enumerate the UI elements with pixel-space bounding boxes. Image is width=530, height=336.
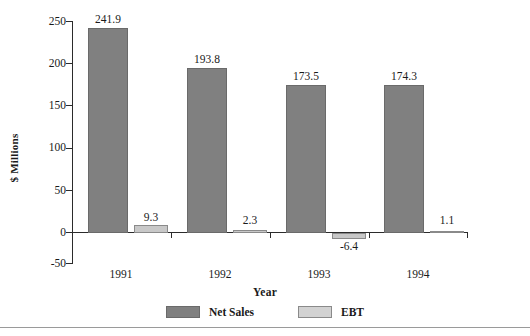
- bar-value-label-net-sales-1994: 174.3: [374, 70, 434, 82]
- bar-value-label-ebt-1992: 2.3: [220, 214, 280, 226]
- x-axis-tick: [369, 232, 370, 238]
- bar-value-label-ebt-1993: -6.4: [319, 240, 379, 252]
- footer-caption: [14, 329, 314, 336]
- bar-value-label-net-sales-1991: 241.9: [78, 13, 138, 25]
- legend-label-net-sales: Net Sales: [209, 306, 254, 318]
- y-axis-tick: [66, 190, 72, 191]
- bar-chart: $ Millions 250 200 150 100 50 0 -50 241.…: [0, 0, 530, 336]
- bar-net-sales-1991[interactable]: [88, 28, 128, 233]
- legend-swatch-icon-net-sales: [166, 306, 200, 318]
- x-tick-label-1991: 1991: [91, 268, 151, 280]
- y-tick-label: 0: [22, 226, 66, 238]
- bar-ebt-1992[interactable]: [233, 230, 267, 233]
- x-tick-label-1993: 1993: [289, 268, 349, 280]
- y-tick-label: 150: [22, 99, 66, 111]
- bar-value-label-ebt-1994: 1.1: [417, 214, 477, 226]
- bar-value-label-net-sales-1993: 173.5: [276, 70, 336, 82]
- footer-divider: [0, 327, 530, 328]
- chart-legend: Net Sales EBT: [0, 306, 530, 318]
- y-axis-tick: [66, 148, 72, 149]
- y-axis-tick: [66, 263, 72, 264]
- bar-ebt-1991[interactable]: [134, 225, 168, 233]
- y-axis-tick: [66, 105, 72, 106]
- y-axis-tick: [66, 63, 72, 64]
- legend-swatch-icon-ebt: [298, 306, 332, 318]
- bar-ebt-1993[interactable]: [332, 233, 366, 239]
- x-tick-label-1994: 1994: [388, 268, 448, 280]
- bar-value-label-ebt-1991: 9.3: [121, 211, 181, 223]
- legend-item-ebt[interactable]: EBT: [298, 306, 364, 318]
- bar-net-sales-1993[interactable]: [286, 85, 326, 233]
- x-tick-label-1992: 1992: [190, 268, 250, 280]
- bar-net-sales-1994[interactable]: [384, 85, 424, 233]
- y-tick-label: -50: [22, 257, 66, 269]
- bar-value-label-net-sales-1992: 193.8: [177, 53, 237, 65]
- bar-ebt-1994[interactable]: [430, 231, 464, 233]
- y-axis-line: [72, 21, 73, 264]
- x-axis-tick: [467, 232, 468, 238]
- bar-net-sales-1992[interactable]: [187, 68, 227, 233]
- x-axis-title: Year: [0, 286, 530, 298]
- legend-label-ebt: EBT: [341, 306, 364, 318]
- y-tick-label: 200: [22, 57, 66, 69]
- y-tick-label: 250: [22, 15, 66, 27]
- y-axis-title: $ Millions: [8, 108, 22, 208]
- x-axis-tick: [270, 232, 271, 238]
- x-axis-tick: [171, 232, 172, 238]
- plot-area: 241.9 9.3 193.8 2.3 173.5 -6.4 174.3 1.1: [72, 21, 468, 263]
- y-tick-label: 100: [22, 141, 66, 153]
- y-axis-tick: [66, 21, 72, 22]
- y-axis-tick: [66, 232, 72, 233]
- y-tick-label: 50: [22, 184, 66, 196]
- legend-item-net-sales[interactable]: Net Sales: [166, 306, 254, 318]
